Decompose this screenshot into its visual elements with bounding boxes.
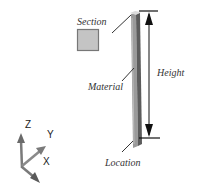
location-label: Location [105, 158, 141, 168]
y-axis-label: Y [47, 130, 54, 140]
column-member [130, 11, 142, 148]
arrow-up-icon [145, 12, 153, 25]
height-label: Height [157, 68, 184, 78]
z-axis-line [21, 140, 22, 168]
axis-triad [17, 133, 46, 183]
x-axis-label: X [43, 157, 50, 167]
z-axis-label: Z [25, 120, 31, 130]
z-arrow-icon [17, 133, 25, 143]
arrow-down-icon [145, 124, 153, 137]
section-leader [112, 15, 131, 33]
section-label: Section [77, 17, 106, 27]
location-leader [122, 141, 133, 152]
section-square [78, 30, 99, 51]
column-element-diagram: Section Material Height Location Z Y X [0, 0, 198, 189]
material-label: Material [88, 82, 123, 92]
y-axis-line [22, 151, 40, 166]
